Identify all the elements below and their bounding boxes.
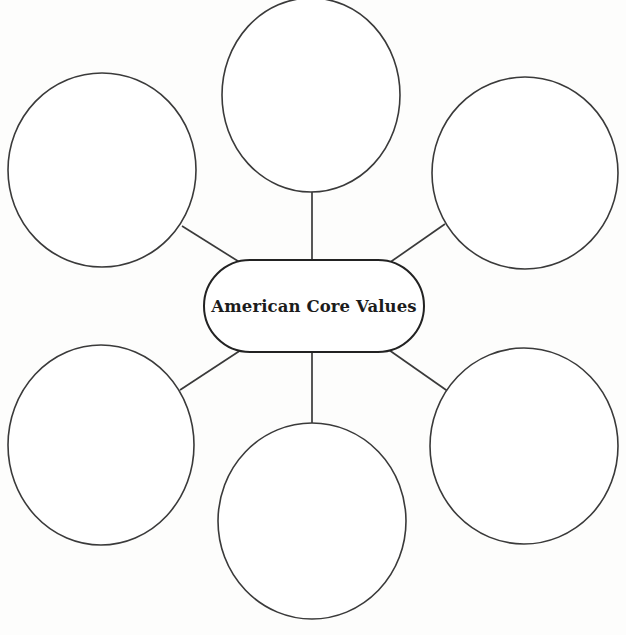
branch-circle-top-center[interactable] — [222, 0, 400, 192]
branch-circle-bottom-right[interactable] — [430, 348, 618, 544]
center-node[interactable]: American Core Values — [204, 260, 424, 352]
concept-map-diagram: American Core Values — [0, 0, 626, 635]
branch-circle-bottom-center[interactable] — [218, 423, 406, 619]
center-node-label: American Core Values — [210, 297, 416, 316]
branch-circle-top-left[interactable] — [8, 73, 196, 267]
concept-map-canvas: American Core Values — [0, 0, 626, 635]
connector-bottom-right — [389, 350, 449, 392]
connector-top-right — [389, 224, 445, 263]
branch-circle-bottom-left[interactable] — [8, 345, 194, 545]
connector-top-left — [182, 226, 241, 263]
connector-bottom-left — [180, 350, 241, 390]
branch-circle-top-right[interactable] — [432, 77, 618, 269]
